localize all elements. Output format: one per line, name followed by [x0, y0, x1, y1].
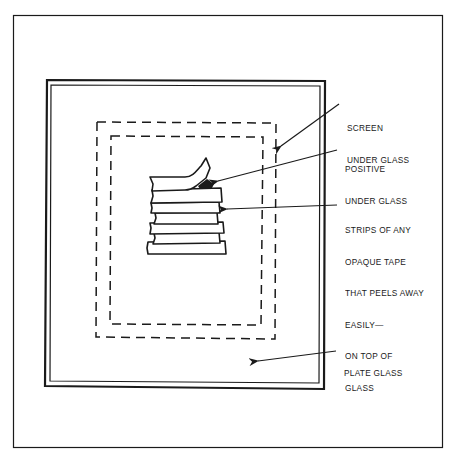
tape-strips [147, 158, 226, 254]
label-line: OPAQUE TAPE [345, 257, 424, 268]
label-line: SCREEN [347, 123, 409, 134]
label-line: POSITIVE [345, 164, 407, 175]
label-line: PLATE GLASS [344, 368, 403, 379]
label-plate-glass: PLATE GLASS [344, 347, 403, 389]
leader-arrows [218, 104, 339, 361]
label-line: THAT PEELS AWAY [345, 288, 424, 299]
label-line: STRIPS OF ANY [345, 225, 424, 236]
screen-arrow [281, 104, 339, 146]
strips-arrow [227, 205, 337, 209]
label-line: EASILY— [345, 320, 424, 331]
